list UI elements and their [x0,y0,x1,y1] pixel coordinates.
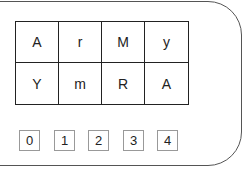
number-box-3: 3 [123,130,144,151]
letter-grid: A r M y Y m R A [15,21,189,105]
grid-cell: A [16,22,59,63]
number-box-0: 0 [19,130,40,151]
grid-cell: m [59,63,102,104]
grid-cell: y [145,22,188,63]
grid-cell: r [59,22,102,63]
number-box-1: 1 [54,130,75,151]
grid-cell: A [145,63,188,104]
grid-cell: R [102,63,145,104]
number-box-4: 4 [157,130,178,151]
grid-cell: M [102,22,145,63]
grid-cell: Y [16,63,59,104]
number-box-2: 2 [88,130,109,151]
